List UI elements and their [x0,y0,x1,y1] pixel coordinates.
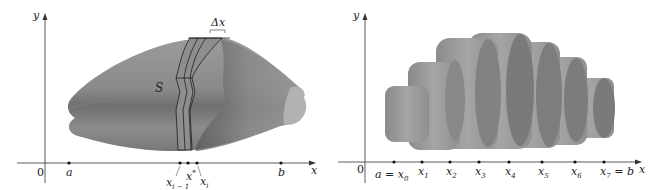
point-x7-label: x7 = b [600,166,634,180]
origin-label: 0 [37,167,44,178]
point-x-i-label: xi [200,176,208,190]
point-a-label: a [66,167,73,178]
delta-x-bracket [210,30,225,33]
origin-label: 0 [357,164,364,175]
point-x4-label: x4 [505,166,516,180]
point-b [279,161,282,164]
x-axis-label: x [639,164,645,175]
point-x-i-minus-1 [178,161,181,164]
point-x-i-star-label: x* [186,170,196,182]
y-axis-arrow-icon [43,13,48,20]
point-a [67,161,70,164]
solid-of-revolution-figure [0,0,330,190]
point-x5-label: x5 [538,166,549,180]
point-x3-label: x3 [475,166,486,180]
delta-x-label: Δx [211,17,225,28]
y-axis-arrow-icon [363,13,368,20]
solid-label: S [155,82,163,94]
stacked-slabs-figure [330,0,658,190]
point-x-i-star [186,161,189,164]
point-x-i [195,161,198,164]
slab-1 [385,86,429,142]
slab-approximation-panel: y x 0 a = x0 x1 x2 x3 x4 x5 x6 x7 = b [330,0,658,190]
point-b-label: b [278,167,285,178]
point-x1-label: x1 [418,166,429,180]
point-x2-label: x2 [446,166,457,180]
point-x0-label: a = x0 [375,169,408,183]
point-x6-label: x6 [571,166,582,180]
x-axis-label: x [311,165,317,176]
solid-diagram-panel: y x 0 S Δx a xi − 1 x* xi b [0,0,330,190]
y-axis-label: y [353,10,359,21]
y-axis-label: y [33,10,39,21]
